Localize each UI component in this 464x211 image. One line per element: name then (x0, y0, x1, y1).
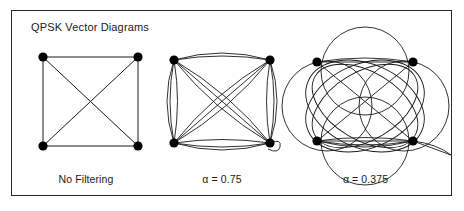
constellation-point (312, 57, 321, 66)
constellation-point (169, 55, 178, 64)
vector-diagram-no-filtering (11, 10, 161, 196)
constellation-point (169, 138, 178, 147)
constellation-point (38, 52, 47, 61)
trajectory-left-outer (167, 60, 174, 143)
vector-diagram-alpha-0-375 (279, 10, 452, 196)
qpsk-vector-diagram-figure: QPSK Vector Diagrams (0, 0, 464, 211)
constellation-point (408, 136, 417, 145)
panel-alpha-0-75: α = 0.75 (151, 10, 293, 196)
trajectory-top-outer (174, 53, 270, 60)
panel-caption-no-filtering: No Filtering (11, 173, 161, 185)
constellation-point (265, 138, 274, 147)
trajectory-bottom-arc-3 (317, 138, 413, 142)
panel-caption-alpha-0-375: α = 0.375 (279, 173, 452, 185)
panels-container: No Filtering (11, 10, 452, 196)
constellation-point (38, 141, 47, 150)
trajectory-chord-right (267, 60, 271, 143)
constellation-point (408, 57, 417, 66)
constellation-point (312, 136, 321, 145)
constellation-point (133, 141, 142, 150)
trajectory-chord-bottom (174, 140, 270, 144)
panel-caption-alpha-0-75: α = 0.75 (151, 173, 293, 185)
trajectory-right-outer (270, 60, 277, 143)
panel-alpha-0-375: α = 0.375 (279, 10, 452, 196)
trajectory-chord-left (174, 60, 178, 143)
panel-no-filtering: No Filtering (11, 10, 161, 196)
overshoot-tail-outer (413, 141, 451, 155)
constellation-point (265, 55, 274, 64)
trajectory-bottom-outer (174, 143, 270, 150)
constellation-point (133, 52, 142, 61)
vector-diagram-alpha-0-75 (151, 10, 293, 196)
